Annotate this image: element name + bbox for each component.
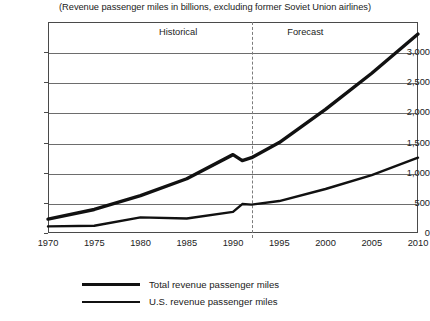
series-lines — [48, 22, 418, 233]
x-axis-tick-label: 1975 — [84, 238, 105, 248]
x-axis-tick-label: 1980 — [130, 238, 151, 248]
x-axis-tick-label: 1985 — [176, 238, 197, 248]
legend-line-total-icon — [82, 283, 140, 286]
x-axis-tick-label: 1995 — [269, 238, 290, 248]
chart-title: (Revenue passenger miles in billions, ex… — [0, 2, 430, 12]
x-axis-tick-label: 2005 — [361, 238, 382, 248]
legend-item-us: U.S. revenue passenger miles — [82, 293, 382, 310]
legend-item-total: Total revenue passenger miles — [82, 276, 382, 293]
x-axis-tick-label: 2000 — [315, 238, 336, 248]
series-line-us — [48, 158, 418, 227]
legend-line-us-icon — [82, 301, 140, 303]
chart-container: (Revenue passenger miles in billions, ex… — [0, 0, 430, 321]
x-axis-tick-label: 1990 — [223, 238, 244, 248]
legend-label-us: U.S. revenue passenger miles — [149, 296, 278, 307]
x-axis-tick-label: 2010 — [408, 238, 429, 248]
series-line-total — [48, 34, 418, 219]
y-axis-tick — [44, 233, 48, 234]
legend-label-total: Total revenue passenger miles — [149, 279, 279, 290]
x-axis-tick-label: 1970 — [38, 238, 59, 248]
chart-legend: Total revenue passenger miles U.S. reven… — [82, 276, 382, 310]
